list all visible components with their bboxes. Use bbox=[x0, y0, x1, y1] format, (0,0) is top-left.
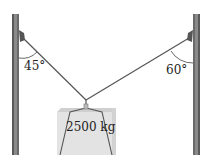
right-angle-label: 60° bbox=[166, 64, 187, 76]
left-post bbox=[12, 14, 19, 155]
mass-label: 2500 kg bbox=[66, 121, 115, 133]
right-bracket bbox=[187, 30, 193, 42]
left-angle-label: 45° bbox=[24, 60, 45, 72]
left-bracket bbox=[19, 30, 25, 42]
right-angle-arc bbox=[171, 51, 193, 63]
left-angle-arc bbox=[19, 52, 37, 58]
right-post bbox=[193, 14, 200, 155]
